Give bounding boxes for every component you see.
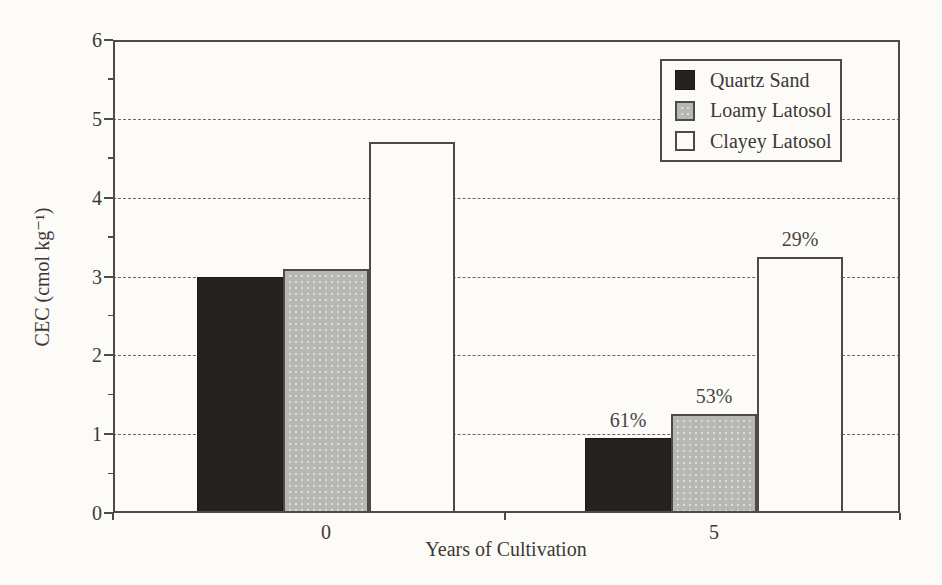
y-tick bbox=[104, 354, 113, 356]
gridline bbox=[113, 198, 900, 199]
bar-quartz-sand-year-0 bbox=[197, 277, 283, 514]
legend-label: Quartz Sand bbox=[710, 69, 809, 92]
y-tick-label: 4 bbox=[68, 185, 102, 211]
legend-label: Loamy Latosol bbox=[710, 99, 832, 122]
y-minor-tick bbox=[108, 394, 113, 396]
legend-swatch-loamy-latosol bbox=[675, 101, 695, 121]
y-tick-label: 0 bbox=[68, 500, 102, 526]
y-minor-tick bbox=[108, 236, 113, 238]
x-tick bbox=[899, 513, 901, 520]
y-tick bbox=[104, 433, 113, 435]
y-tick bbox=[104, 118, 113, 120]
legend-row: Quartz Sand bbox=[675, 69, 840, 92]
x-axis-title: Years of Cultivation bbox=[425, 538, 586, 561]
y-tick bbox=[104, 197, 113, 199]
bar-clayey-latosol-year-0 bbox=[369, 142, 455, 513]
y-minor-tick bbox=[108, 78, 113, 80]
legend-row: Clayey Latosol bbox=[675, 130, 840, 153]
x-category-label: 0 bbox=[321, 521, 331, 544]
x-tick bbox=[504, 513, 506, 520]
plot-area: Quartz Sand Loamy Latosol Clayey Latosol… bbox=[113, 40, 900, 513]
bar-clayey-latosol-year-5 bbox=[757, 257, 843, 513]
y-tick-label: 1 bbox=[68, 421, 102, 447]
y-tick-label: 5 bbox=[68, 106, 102, 132]
bar-loamy-latosol-year-5 bbox=[671, 414, 757, 513]
y-tick-label: 6 bbox=[68, 27, 102, 53]
y-tick-label: 2 bbox=[68, 342, 102, 368]
legend-swatch-clayey-latosol bbox=[675, 131, 695, 151]
x-category-label: 5 bbox=[709, 521, 719, 544]
x-tick bbox=[112, 513, 114, 520]
bar-value-label: 61% bbox=[610, 409, 647, 432]
bar-loamy-latosol-year-0 bbox=[283, 269, 369, 513]
y-minor-tick bbox=[108, 157, 113, 159]
legend: Quartz Sand Loamy Latosol Clayey Latosol bbox=[660, 59, 842, 162]
figure: CEC (cmol kg⁻¹) Quartz Sand Loamy Latoso… bbox=[0, 0, 942, 585]
bar-value-label: 53% bbox=[696, 385, 733, 408]
legend-swatch-quartz-sand bbox=[675, 70, 695, 90]
y-tick-label: 3 bbox=[68, 264, 102, 290]
legend-row: Loamy Latosol bbox=[675, 99, 840, 122]
y-tick bbox=[104, 39, 113, 41]
y-tick bbox=[104, 276, 113, 278]
y-minor-tick bbox=[108, 473, 113, 475]
y-minor-tick bbox=[108, 315, 113, 317]
bar-quartz-sand-year-5 bbox=[585, 438, 671, 513]
legend-label: Clayey Latosol bbox=[710, 130, 832, 153]
bar-value-label: 29% bbox=[782, 228, 819, 251]
y-axis-title: CEC (cmol kg⁻¹) bbox=[30, 127, 54, 427]
